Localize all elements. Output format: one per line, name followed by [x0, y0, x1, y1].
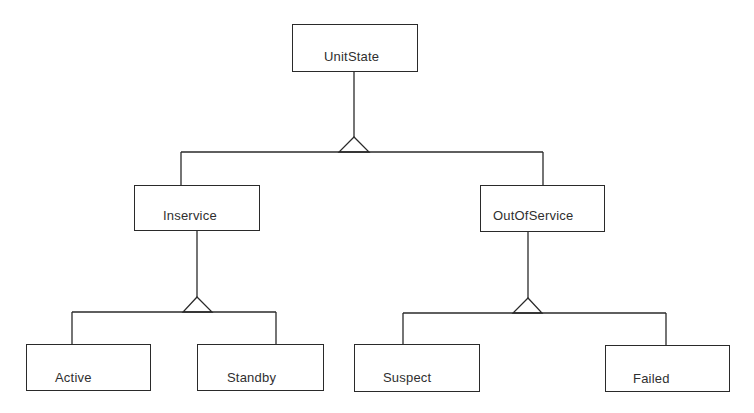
node-label: Failed — [633, 371, 670, 386]
generalization-triangle-icon — [513, 298, 542, 313]
node-label: Suspect — [383, 370, 431, 385]
node-label: Inservice — [163, 208, 217, 223]
node-standby: Standby — [197, 344, 324, 391]
node-label: UnitState — [324, 49, 379, 64]
node-inservice: Inservice — [134, 185, 260, 231]
node-unitstate: UnitState — [292, 24, 418, 72]
generalization-triangle-icon — [339, 137, 369, 152]
node-label: Standby — [227, 370, 276, 385]
state-hierarchy-diagram: UnitState Inservice OutOfService Active … — [0, 0, 754, 413]
node-label: OutOfService — [493, 208, 573, 223]
node-failed: Failed — [605, 345, 730, 392]
node-label: Active — [55, 370, 92, 385]
node-active: Active — [26, 344, 151, 391]
node-outofservice: OutOfService — [480, 185, 605, 232]
node-suspect: Suspect — [354, 344, 480, 392]
generalization-triangle-icon — [183, 297, 212, 312]
